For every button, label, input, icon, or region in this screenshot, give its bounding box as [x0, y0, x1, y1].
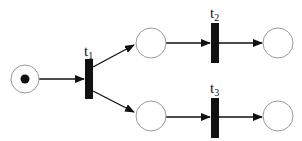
transition-label-t1: t1 [84, 43, 93, 61]
place-p5 [263, 101, 293, 131]
place-p3 [136, 101, 166, 131]
transition-t2 [211, 23, 219, 63]
place-p4 [263, 28, 293, 58]
transition-label-t2: t2 [210, 5, 219, 23]
token [21, 75, 30, 84]
place-p2 [136, 28, 166, 58]
petri-net-diagram: t1 t2 t3 [0, 0, 302, 141]
transition-t1 [85, 59, 93, 99]
transition-t3 [211, 98, 219, 138]
transition-label-t3: t3 [210, 80, 219, 98]
arc-t1-p2 [93, 45, 134, 67]
diagram-canvas: t1 t2 t3 [0, 0, 302, 141]
arc-t1-p3 [93, 91, 134, 112]
